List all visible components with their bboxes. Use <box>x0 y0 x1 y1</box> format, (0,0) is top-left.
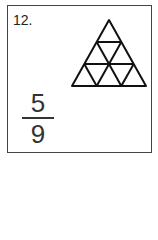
fraction: 5 9 <box>22 90 54 147</box>
fraction-denominator: 9 <box>22 121 54 147</box>
fraction-numerator: 5 <box>22 90 54 116</box>
